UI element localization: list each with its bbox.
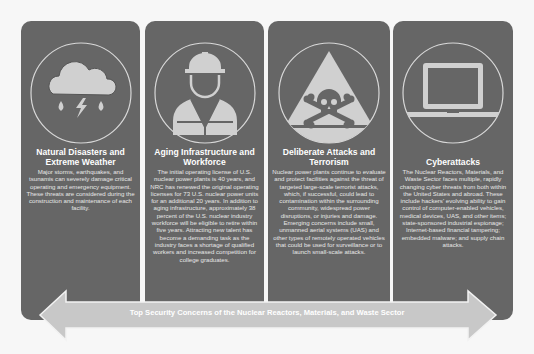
card-body: The Nuclear Reactors, Materials, and Was… bbox=[397, 168, 509, 248]
card-body: Major storms, earthquakes, and tsunamis … bbox=[25, 168, 136, 212]
skull-crossbones-warning-icon bbox=[275, 39, 383, 147]
construction-worker-icon bbox=[151, 39, 259, 147]
card-natural-disasters: Natural Disasters and Extreme Weather Ma… bbox=[21, 21, 140, 320]
banner-title: Top Security Concerns of the Nuclear Rea… bbox=[40, 308, 494, 318]
card-deliberate-attacks: Deliberate Attacks and Terrorism Nuclear… bbox=[268, 21, 390, 320]
card-title: Natural Disasters and Extreme Weather bbox=[25, 147, 136, 167]
card-title: Aging Infrastructure and Workforce bbox=[149, 147, 260, 167]
card-aging-infrastructure: Aging Infrastructure and Workforce The i… bbox=[145, 21, 264, 320]
card-body: The initial operating license of U.S. nu… bbox=[149, 168, 260, 263]
card-body: Nuclear power plants continue to evaluat… bbox=[272, 168, 386, 256]
storm-cloud-icon bbox=[27, 39, 135, 147]
card-title: Cyberattacks bbox=[397, 157, 509, 167]
card-cyberattacks: Cyberattacks The Nuclear Reactors, Mater… bbox=[393, 21, 513, 320]
laptop-icon bbox=[399, 39, 507, 147]
card-title: Deliberate Attacks and Terrorism bbox=[272, 147, 386, 167]
